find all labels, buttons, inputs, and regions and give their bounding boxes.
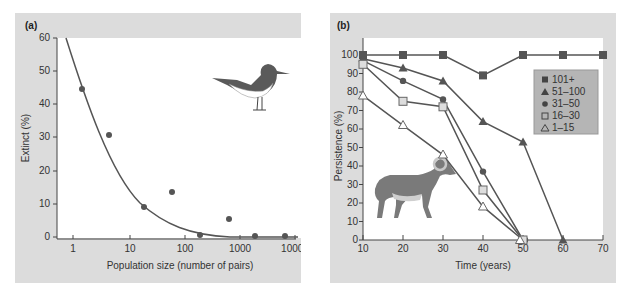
legend-marker-filled-square bbox=[542, 77, 548, 83]
svg-text:20: 20 bbox=[397, 243, 409, 254]
svg-text:40: 40 bbox=[347, 160, 359, 171]
svg-text:20: 20 bbox=[347, 197, 359, 208]
svg-text:80: 80 bbox=[347, 86, 359, 97]
panel-b-label: (b) bbox=[337, 20, 350, 31]
panel-a-label: (a) bbox=[25, 20, 37, 31]
svg-text:20: 20 bbox=[39, 165, 51, 176]
legend-item-1-15: 1–15 bbox=[552, 122, 575, 133]
y-ticks: 0 10 20 30 40 50 60 bbox=[39, 32, 57, 242]
svg-text:60: 60 bbox=[347, 123, 359, 134]
y-axis-label: Extinct (%) bbox=[20, 114, 31, 162]
svg-text:100: 100 bbox=[341, 49, 358, 60]
svg-text:90: 90 bbox=[347, 68, 359, 79]
svg-text:70: 70 bbox=[347, 105, 359, 116]
svg-text:0: 0 bbox=[44, 231, 50, 242]
svg-text:50: 50 bbox=[347, 142, 359, 153]
svg-text:10000: 10000 bbox=[281, 243, 301, 254]
legend-item-16-30: 16–30 bbox=[552, 110, 580, 121]
legend: 101+ 51–100 31–50 16–30 1–15 bbox=[534, 70, 598, 134]
svg-text:50: 50 bbox=[39, 65, 51, 76]
svg-text:30: 30 bbox=[437, 243, 449, 254]
panel-a: 0 10 20 30 40 50 60 1 10 100 1000 10000 bbox=[15, 13, 301, 283]
svg-text:70: 70 bbox=[597, 243, 609, 254]
persistence-chart: 0 10 20 30 40 50 60 70 80 90 100 10 20 3… bbox=[330, 13, 616, 283]
x-axis-label: Time (years) bbox=[455, 260, 511, 271]
x-axis-label: Population size (number of pairs) bbox=[107, 260, 254, 271]
legend-item-101-plus: 101+ bbox=[552, 74, 575, 85]
svg-text:40: 40 bbox=[39, 98, 51, 109]
svg-text:10: 10 bbox=[39, 198, 51, 209]
legend-item-51-100: 51–100 bbox=[552, 86, 586, 97]
legend-item-31-50: 31–50 bbox=[552, 98, 580, 109]
svg-text:30: 30 bbox=[347, 179, 359, 190]
svg-text:40: 40 bbox=[477, 243, 489, 254]
svg-text:1000: 1000 bbox=[229, 243, 252, 254]
legend-marker-filled-circle bbox=[542, 101, 548, 107]
svg-text:10: 10 bbox=[124, 243, 136, 254]
svg-text:60: 60 bbox=[39, 32, 51, 43]
extinction-chart: 0 10 20 30 40 50 60 1 10 100 1000 10000 bbox=[15, 13, 301, 283]
svg-text:1: 1 bbox=[70, 243, 76, 254]
svg-text:60: 60 bbox=[557, 243, 569, 254]
svg-text:30: 30 bbox=[39, 131, 51, 142]
svg-text:10: 10 bbox=[347, 216, 359, 227]
svg-text:10: 10 bbox=[357, 243, 369, 254]
panel-b: 0 10 20 30 40 50 60 70 80 90 100 10 20 3… bbox=[330, 13, 616, 283]
svg-text:100: 100 bbox=[177, 243, 194, 254]
svg-text:50: 50 bbox=[517, 243, 529, 254]
y-axis-label: Persistence (%) bbox=[333, 111, 344, 182]
y-ticks: 0 10 20 30 40 50 60 70 80 90 100 bbox=[341, 49, 363, 245]
